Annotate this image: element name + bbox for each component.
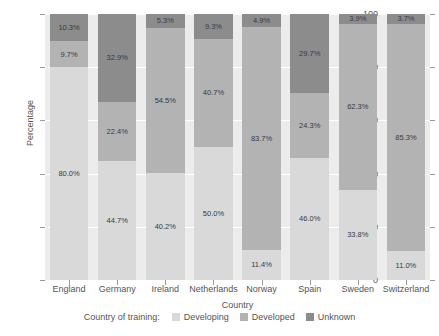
bar-segment-developed[interactable]: 83.7% (242, 27, 281, 250)
bar-segment-value-label: 9.3% (205, 23, 222, 31)
bar-segment-value-label: 32.9% (107, 54, 128, 62)
bar-segment-value-label: 54.5% (155, 97, 176, 105)
x-axis-label-spain: Spain (298, 284, 321, 294)
legend-label: Unknown (318, 312, 356, 322)
bar-segment-value-label: 4.9% (253, 17, 270, 25)
bar-segment-unknown[interactable]: 3.9% (339, 14, 378, 24)
bar-segment-developing[interactable]: 50.0% (194, 147, 233, 280)
legend-item-developed[interactable]: Developed (240, 312, 295, 322)
y-axis-tick (430, 174, 435, 175)
bar-segment-unknown[interactable]: 5.3% (146, 14, 185, 28)
plot-area: 02040608010080.0%9.7%10.3%44.7%22.4%32.9… (45, 14, 430, 280)
bar-segment-developing[interactable]: 11.0% (387, 251, 426, 280)
bar-segment-value-label: 50.0% (203, 210, 224, 218)
bar-switzerland[interactable]: 11.0%85.3%3.7% (387, 14, 426, 280)
y-axis-title: Percentage (25, 63, 35, 183)
y-axis-tick (40, 14, 45, 15)
bar-segment-value-label: 10.3% (58, 24, 79, 32)
bar-segment-developed[interactable]: 62.3% (339, 24, 378, 190)
bar-segment-developed[interactable]: 54.5% (146, 28, 185, 173)
bar-segment-value-label: 11.4% (251, 261, 272, 269)
stacked-bar-chart: Percentage 02040608010080.0%9.7%10.3%44.… (0, 0, 439, 336)
bar-netherlands[interactable]: 50.0%40.7%9.3% (194, 14, 233, 280)
x-axis-label-norway: Norway (246, 284, 277, 294)
legend-swatch-icon (240, 313, 248, 321)
x-axis-label-netherlands: Netherlands (189, 284, 238, 294)
x-axis-label-switzerland: Switzerland (383, 284, 430, 294)
bar-spain[interactable]: 46.0%24.3%29.7% (290, 14, 329, 280)
y-axis-tick (430, 280, 435, 281)
bar-segment-value-label: 80.0% (58, 170, 79, 178)
bar-segment-unknown[interactable]: 4.9% (242, 14, 281, 27)
y-axis-tick (40, 280, 45, 281)
legend-item-unknown[interactable]: Unknown (306, 312, 356, 322)
y-axis-tick (40, 120, 45, 121)
bar-segment-value-label: 85.3% (395, 134, 416, 142)
bar-ireland[interactable]: 40.2%54.5%5.3% (146, 14, 185, 280)
y-axis-tick (40, 227, 45, 228)
x-axis-label-ireland: Ireland (152, 284, 180, 294)
bar-segment-value-label: 46.0% (299, 215, 320, 223)
bar-segment-value-label: 9.7% (61, 51, 78, 59)
legend-swatch-icon (306, 313, 314, 321)
bar-segment-developing[interactable]: 46.0% (290, 158, 329, 280)
bar-segment-value-label: 62.3% (347, 103, 368, 111)
bar-segment-unknown[interactable]: 10.3% (50, 14, 89, 41)
legend-item-developing[interactable]: Developing (172, 312, 229, 322)
bar-segment-value-label: 29.7% (299, 50, 320, 58)
bar-segment-value-label: 83.7% (251, 135, 272, 143)
bar-segment-unknown[interactable]: 32.9% (98, 14, 137, 102)
y-axis-tick (430, 227, 435, 228)
bar-segment-value-label: 3.9% (349, 15, 366, 23)
bar-segment-developed[interactable]: 85.3% (387, 24, 426, 251)
bar-segment-developed[interactable]: 24.3% (290, 93, 329, 158)
bar-norway[interactable]: 11.4%83.7%4.9% (242, 14, 281, 280)
y-axis-tick (430, 14, 435, 15)
bar-england[interactable]: 80.0%9.7%10.3% (50, 14, 89, 280)
bar-segment-developed[interactable]: 9.7% (50, 41, 89, 67)
bar-segment-value-label: 33.8% (347, 231, 368, 239)
legend-title: Country of training: (84, 312, 160, 322)
bar-germany[interactable]: 44.7%22.4%32.9% (98, 14, 137, 280)
bar-segment-developing[interactable]: 44.7% (98, 161, 137, 280)
y-axis-tick (40, 174, 45, 175)
bar-segment-value-label: 3.7% (397, 15, 414, 23)
bar-segment-developing[interactable]: 33.8% (339, 190, 378, 280)
x-axis-title: Country (45, 300, 430, 310)
bar-segment-unknown[interactable]: 9.3% (194, 14, 233, 39)
bar-segment-unknown[interactable]: 29.7% (290, 14, 329, 93)
bar-segment-value-label: 11.0% (396, 262, 417, 270)
bar-segment-developing[interactable]: 11.4% (242, 250, 281, 280)
x-axis-label-england: England (53, 284, 86, 294)
bar-segment-value-label: 40.2% (155, 223, 176, 231)
y-axis-tick (40, 67, 45, 68)
bar-segment-developing[interactable]: 40.2% (146, 173, 185, 280)
bar-segment-developed[interactable]: 40.7% (194, 39, 233, 147)
bar-segment-value-label: 5.3% (157, 17, 174, 25)
bar-segment-unknown[interactable]: 3.7% (387, 14, 426, 24)
bar-segment-developing[interactable]: 80.0% (50, 67, 89, 280)
bar-sweden[interactable]: 33.8%62.3%3.9% (339, 14, 378, 280)
chart-legend: Country of training: DevelopingDeveloped… (0, 312, 439, 322)
x-axis-label-germany: Germany (99, 284, 136, 294)
bar-segment-value-label: 24.3% (299, 122, 320, 130)
y-axis-tick (430, 67, 435, 68)
bar-segment-value-label: 44.7% (107, 217, 128, 225)
legend-label: Developing (184, 312, 229, 322)
bar-segment-value-label: 22.4% (107, 128, 128, 136)
x-axis-label-sweden: Sweden (342, 284, 375, 294)
legend-label: Developed (252, 312, 295, 322)
legend-swatch-icon (172, 313, 180, 321)
y-axis-tick (430, 120, 435, 121)
bar-segment-value-label: 40.7% (203, 89, 224, 97)
bar-segment-developed[interactable]: 22.4% (98, 102, 137, 162)
